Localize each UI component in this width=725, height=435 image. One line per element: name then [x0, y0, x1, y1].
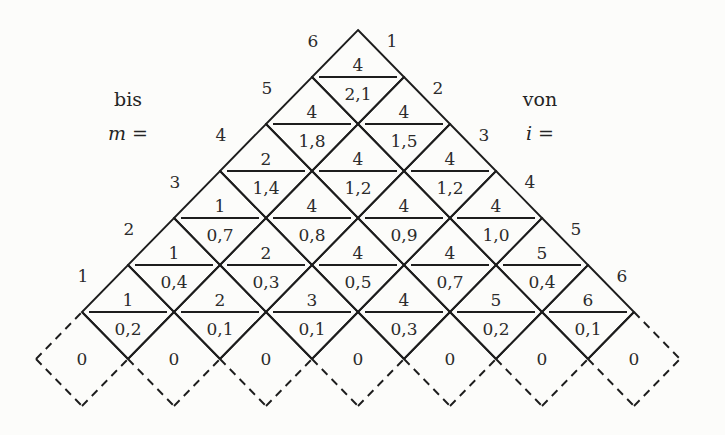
- cell-bottom-value-r6-c4: 0,3: [390, 319, 417, 339]
- cell-top-value-r1-c1: 4: [353, 55, 364, 75]
- cell-bottom-value-r3-c2: 1,2: [344, 178, 371, 198]
- base-cell-edge-lr-2: [174, 359, 220, 406]
- cell-bottom-value-r6-c3: 0,1: [298, 319, 325, 339]
- base-cell-edge-ll-3: [220, 359, 266, 406]
- cell-top-value-r3-c1: 2: [261, 149, 272, 169]
- cell-top-value-r5-c5: 5: [537, 243, 548, 263]
- cell-top-value-r5-c4: 4: [445, 243, 456, 263]
- cell-bottom-value-r3-c3: 1,2: [436, 178, 463, 198]
- base-cell-edge-ll-7: [588, 359, 634, 406]
- base-cell-value-7: 0: [629, 349, 640, 369]
- base-cell-value-4: 0: [353, 349, 364, 369]
- base-cell-edge-ll-6: [496, 359, 542, 406]
- left-edge-label-6: 1: [78, 266, 89, 286]
- left-edge-label-4: 3: [170, 172, 181, 192]
- cell-bottom-value-r3-c1: 1,4: [252, 178, 279, 198]
- cell-bottom-value-r6-c2: 0,1: [206, 319, 233, 339]
- right-edge-label-3: 3: [479, 125, 490, 145]
- cell-bottom-value-r4-c2: 0,8: [298, 225, 325, 245]
- base-cell-edge-ll-4: [312, 359, 358, 406]
- base-cell-edge-lr-7: [634, 359, 680, 406]
- cell-top-value-r6-c5: 5: [491, 290, 502, 310]
- right-edge-label-5: 5: [571, 219, 582, 239]
- base-cell-edge-lr-3: [266, 359, 312, 406]
- cell-top-value-r4-c1: 1: [215, 196, 226, 216]
- base-cell-edge-ur-7: [634, 312, 680, 359]
- base-cell-value-5: 0: [445, 349, 456, 369]
- cell-top-value-r4-c4: 4: [491, 196, 502, 216]
- cell-top-value-r3-c3: 4: [445, 149, 456, 169]
- cell-top-value-r2-c2: 4: [399, 102, 410, 122]
- cell-top-value-r6-c6: 6: [583, 290, 594, 310]
- cell-top-value-r6-c2: 2: [215, 290, 226, 310]
- base-cell-edge-ll-5: [404, 359, 450, 406]
- cell-top-value-r5-c2: 2: [261, 243, 272, 263]
- base-cell-edge-ll-2: [128, 359, 174, 406]
- left-edge-label-1: 6: [308, 31, 319, 51]
- base-cell-value-3: 0: [261, 349, 272, 369]
- triangle-dp-diagram: 42,141,841,521,441,241,210,740,840,941,0…: [0, 0, 725, 435]
- cell-bottom-value-r5-c3: 0,5: [344, 272, 371, 292]
- base-cell-edge-ll-1: [36, 359, 82, 406]
- base-cell-value-6: 0: [537, 349, 548, 369]
- cell-bottom-value-r2-c2: 1,5: [390, 131, 417, 151]
- right-edge-label-1: 1: [387, 31, 398, 51]
- cell-top-value-r6-c4: 4: [399, 290, 410, 310]
- base-cell-edge-ul-1: [36, 312, 82, 359]
- base-cell-edge-lr-1: [82, 359, 128, 406]
- cell-top-value-r5-c3: 4: [353, 243, 364, 263]
- cell-top-value-r4-c3: 4: [399, 196, 410, 216]
- right-edge-label-6: 6: [617, 266, 628, 286]
- cell-bottom-value-r5-c5: 0,4: [528, 272, 555, 292]
- cell-bottom-value-r5-c1: 0,4: [160, 272, 187, 292]
- base-cell-value-1: 0: [77, 349, 88, 369]
- cell-bottom-value-r4-c4: 1,0: [482, 225, 509, 245]
- base-cell-value-2: 0: [169, 349, 180, 369]
- cell-top-value-r5-c1: 1: [169, 243, 180, 263]
- right-edge-label-4: 4: [525, 172, 536, 192]
- cell-top-value-r2-c1: 4: [307, 102, 318, 122]
- cell-bottom-value-r6-c1: 0,2: [114, 319, 141, 339]
- base-cell-edge-lr-4: [358, 359, 404, 406]
- cell-bottom-value-r5-c2: 0,3: [252, 272, 279, 292]
- cell-top-value-r3-c2: 4: [353, 149, 364, 169]
- left-edge-label-3: 4: [216, 125, 227, 145]
- cell-top-value-r6-c3: 3: [307, 290, 318, 310]
- right-edge-label-2: 2: [433, 78, 444, 98]
- cell-bottom-value-r4-c3: 0,9: [390, 225, 417, 245]
- left-edge-label-5: 2: [124, 219, 135, 239]
- base-cell-edge-lr-6: [542, 359, 588, 406]
- cell-bottom-value-r2-c1: 1,8: [298, 131, 325, 151]
- cell-bottom-value-r4-c1: 0,7: [206, 225, 233, 245]
- cell-bottom-value-r6-c5: 0,2: [482, 319, 509, 339]
- cell-bottom-value-r1-c1: 2,1: [344, 84, 371, 104]
- cell-bottom-value-r6-c6: 0,1: [574, 319, 601, 339]
- scanned-figure-page: bis m = von i = 42,141,841,521,441,241,2…: [0, 0, 725, 435]
- cell-top-value-r4-c2: 4: [307, 196, 318, 216]
- left-edge-label-2: 5: [262, 78, 273, 98]
- cell-bottom-value-r5-c4: 0,7: [436, 272, 463, 292]
- cell-top-value-r6-c1: 1: [123, 290, 134, 310]
- base-cell-edge-lr-5: [450, 359, 496, 406]
